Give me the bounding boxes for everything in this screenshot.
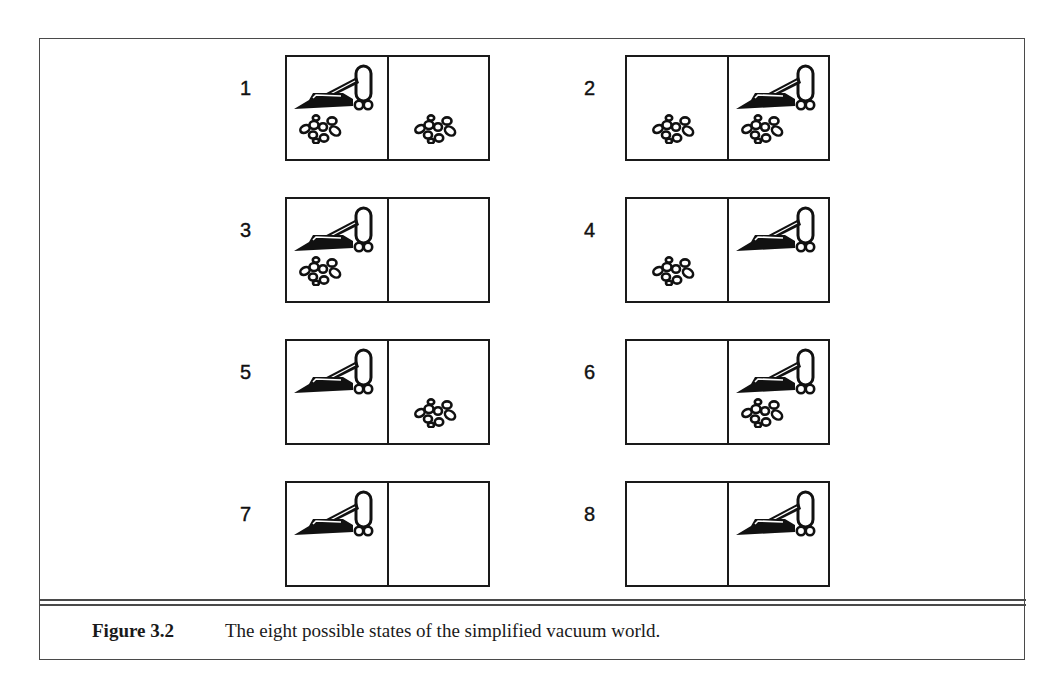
cell-left: [287, 341, 387, 443]
dirt-icon: [740, 398, 786, 428]
dirt-icon: [413, 114, 459, 144]
state-number-label: 3: [240, 219, 251, 242]
caption-divider-bottom: [39, 604, 1026, 606]
vacuum-world: [285, 55, 490, 161]
vacuum-cleaner-icon: [293, 63, 377, 113]
state-2: 2: [584, 55, 884, 165]
state-number-label: 2: [584, 77, 595, 100]
vacuum-cleaner-icon: [735, 489, 819, 539]
cell-right: [727, 199, 829, 301]
cell-right: [387, 483, 489, 585]
dirt-icon: [298, 256, 344, 286]
state-number-label: 7: [240, 503, 251, 526]
state-5: 5: [244, 339, 544, 449]
state-number-label: 6: [584, 361, 595, 384]
cell-right: [387, 341, 489, 443]
dirt-icon: [413, 398, 459, 428]
cell-right: [387, 199, 489, 301]
figure-caption-text: The eight possible states of the simplif…: [225, 620, 660, 641]
vacuum-cleaner-icon: [735, 205, 819, 255]
dirt-icon: [740, 114, 786, 144]
cell-left: [287, 483, 387, 585]
state-number-label: 4: [584, 219, 595, 242]
vacuum-cleaner-icon: [293, 489, 377, 539]
dirt-icon: [651, 114, 697, 144]
cell-left: [287, 199, 387, 301]
vacuum-cleaner-icon: [293, 347, 377, 397]
figure-label: Figure 3.2: [92, 620, 225, 642]
state-3: 3: [244, 197, 544, 307]
cell-right: [727, 341, 829, 443]
dirt-icon: [651, 256, 697, 286]
cell-left: [287, 57, 387, 159]
figure-caption: Figure 3.2The eight possible states of t…: [92, 620, 660, 642]
state-6: 6: [584, 339, 884, 449]
vacuum-cleaner-icon: [735, 63, 819, 113]
state-number-label: 1: [240, 77, 251, 100]
caption-divider-top: [39, 599, 1026, 601]
vacuum-cleaner-icon: [293, 205, 377, 255]
vacuum-world: [625, 481, 830, 587]
cell-left: [627, 341, 727, 443]
vacuum-cleaner-icon: [735, 347, 819, 397]
vacuum-world: [625, 197, 830, 303]
state-number-label: 8: [584, 503, 595, 526]
cell-right: [727, 483, 829, 585]
vacuum-world: [625, 55, 830, 161]
cell-left: [627, 483, 727, 585]
vacuum-world: [625, 339, 830, 445]
cell-right: [727, 57, 829, 159]
state-4: 4: [584, 197, 884, 307]
cell-left: [627, 199, 727, 301]
dirt-icon: [298, 114, 344, 144]
state-number-label: 5: [240, 361, 251, 384]
state-7: 7: [244, 481, 544, 591]
cell-right: [387, 57, 489, 159]
vacuum-world: [285, 197, 490, 303]
state-1: 1: [244, 55, 544, 165]
vacuum-world: [285, 481, 490, 587]
cell-left: [627, 57, 727, 159]
state-8: 8: [584, 481, 884, 591]
vacuum-world: [285, 339, 490, 445]
